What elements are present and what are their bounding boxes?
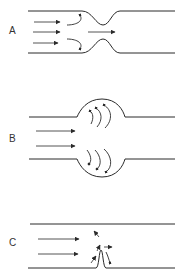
flow-diagram (0, 0, 195, 275)
panel-a-channel (28, 11, 175, 53)
panel-c-eddy (106, 252, 110, 263)
panel-c-channel (28, 224, 175, 268)
panel-a-label: A (9, 25, 16, 36)
panel-b-label: B (9, 133, 16, 144)
panel-c-deflect-arrow-1 (91, 256, 96, 263)
panel-b-bottom-wall (29, 159, 175, 177)
panel-c-bottom-wall (28, 250, 175, 268)
panel-b-channel (29, 99, 175, 177)
panel-a-bottom-wall (28, 39, 175, 53)
panel-a-top-wall (28, 11, 175, 25)
panel-b-vortex-bottom-1 (87, 150, 91, 164)
panel-b-vortex-bottom-2 (95, 150, 100, 169)
panel-b-vortex-top-3 (104, 105, 111, 128)
panel-c-label: C (9, 237, 16, 248)
panel-a-recirculation-bottom (67, 39, 81, 49)
panel-b-vortex-top-1 (90, 111, 93, 124)
panel-b-vortex-bottom-3 (104, 149, 111, 172)
panel-b-top-wall (29, 99, 175, 117)
panel-c-deflect-arrow-2 (97, 245, 100, 251)
panel-a-recirculation-top (67, 15, 81, 25)
panel-c-deflect-arrow-3 (94, 231, 99, 237)
panel-b-vortex-top-2 (96, 108, 101, 127)
